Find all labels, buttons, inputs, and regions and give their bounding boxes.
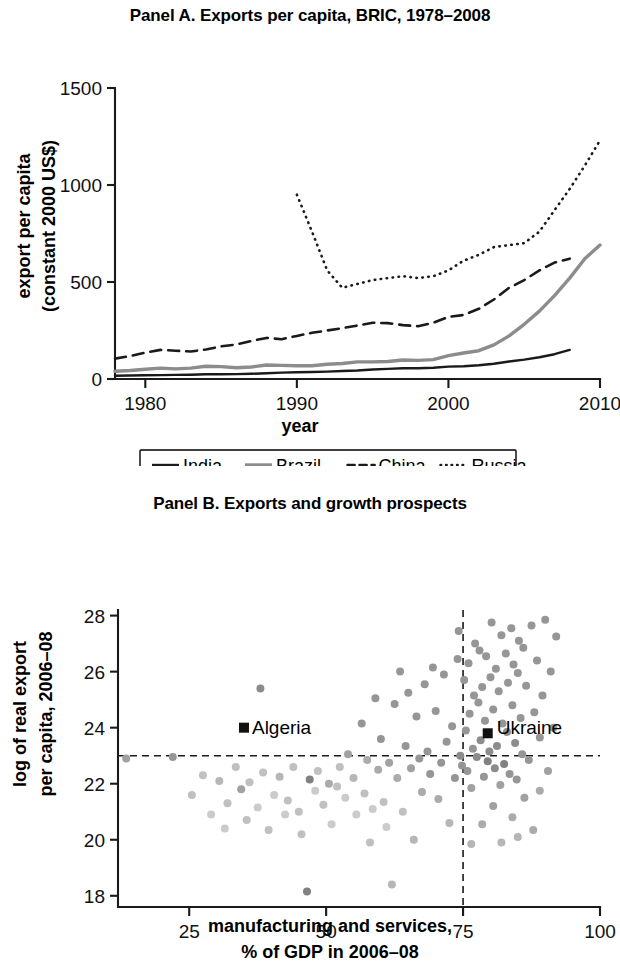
panel-a-axis-lines [115, 88, 600, 379]
scatter-point [508, 701, 516, 709]
scatter-point [522, 682, 530, 690]
scatter-point [544, 767, 552, 775]
scatter-point [215, 777, 223, 785]
scatter-point [402, 742, 410, 750]
panel-b-x-axis-title-line1: manufacturing and services, [208, 916, 452, 936]
scatter-point [410, 836, 418, 844]
scatter-point [369, 805, 377, 813]
panel-b-y-axis-title-line1: log of real export [10, 641, 30, 787]
scatter-point [514, 833, 522, 841]
scatter-point [276, 773, 284, 781]
scatter-point [445, 819, 453, 827]
scatter-point [451, 774, 459, 782]
scatter-point [341, 794, 349, 802]
panel-b-x-tick-label: 100 [584, 921, 616, 942]
scatter-point [478, 820, 486, 828]
scatter-point [243, 816, 251, 824]
scatter-point [547, 668, 555, 676]
scatter-point [333, 783, 341, 791]
panel-a-x-tick-label: 2010 [579, 393, 620, 414]
scatter-point [429, 663, 437, 671]
scatter-point [306, 776, 314, 784]
scatter-point [122, 755, 130, 763]
scatter-point [493, 742, 501, 750]
panel-b-title: Panel B. Exports and growth prospects [0, 480, 620, 514]
panel-b-y-tick-label: 26 [84, 662, 105, 683]
scatter-point [303, 888, 311, 896]
scatter-point [536, 787, 544, 795]
scatter-point [482, 652, 490, 660]
scatter-point [518, 750, 526, 758]
panel-a-legend-label-russia: Russia [472, 456, 528, 467]
scatter-point [530, 708, 538, 716]
scatter-point [519, 644, 527, 652]
scatter-point [426, 770, 434, 778]
scatter-point [256, 685, 264, 693]
scatter-point [467, 784, 475, 792]
scatter-point [514, 669, 522, 677]
scatter-point [421, 680, 429, 688]
panel-a-legend-label-india: India [183, 456, 223, 467]
scatter-point [311, 787, 319, 795]
scatter-point [265, 826, 273, 834]
scatter-point [513, 776, 521, 784]
scatter-point [541, 616, 549, 624]
panel-a-y-axis-title-line1: export per capita [14, 152, 34, 298]
scatter-point [385, 759, 393, 767]
scatter-point [319, 801, 327, 809]
scatter-point [489, 802, 497, 810]
panel-a-y-tick-label: 0 [91, 369, 102, 390]
scatter-point [336, 763, 344, 771]
scatter-point [467, 840, 475, 848]
scatter-point [371, 694, 379, 702]
scatter-point [488, 619, 496, 627]
scatter-point [511, 739, 519, 747]
annotation-label-algeria: Algeria [252, 717, 312, 738]
scatter-point [495, 687, 503, 695]
scatter-point [506, 770, 514, 778]
scatter-point [440, 670, 448, 678]
panel-b-y-tick-label: 20 [84, 830, 105, 851]
scatter-point [474, 699, 482, 707]
scatter-point [232, 763, 240, 771]
scatter-point [358, 720, 366, 728]
scatter-point [497, 839, 505, 847]
panel-a-legend-label-china: China [379, 456, 427, 467]
scatter-point [391, 700, 399, 708]
panel-b-x-tick-label: 25 [179, 921, 200, 942]
panel-b-y-tick-label: 28 [84, 606, 105, 627]
scatter-point [281, 811, 289, 819]
scatter-point [443, 738, 451, 746]
scatter-point [415, 755, 423, 763]
panel-b-x-tick-label: 75 [452, 921, 473, 942]
scatter-point [344, 750, 352, 758]
panel-b-chart: 182022242628255075100 AlgeriaUkraine man… [0, 514, 620, 966]
scatter-point [434, 795, 442, 803]
scatter-point [454, 655, 462, 663]
scatter-point [510, 661, 518, 669]
panel-b-x-axis-title-line2: % of GDP in 2006–08 [241, 942, 419, 962]
false [483, 728, 493, 738]
scatter-point [520, 794, 528, 802]
scatter-point [500, 760, 508, 768]
scatter-point [366, 839, 374, 847]
scatter-point [328, 820, 336, 828]
scatter-point [478, 683, 486, 691]
scatter-point [374, 766, 382, 774]
panel-a-x-tick-label: 1990 [276, 393, 318, 414]
scatter-point [489, 706, 497, 714]
scatter-point [466, 710, 474, 718]
scatter-point [418, 788, 426, 796]
scatter-point [399, 808, 407, 816]
scatter-point [224, 799, 232, 807]
scatter-point [188, 791, 196, 799]
scatter-point [221, 825, 229, 833]
scatter-point [508, 813, 516, 821]
scatter-point [456, 752, 464, 760]
scatter-point [380, 798, 388, 806]
scatter-point [295, 808, 303, 816]
panel-a-title: Panel A. Exports per capita, BRIC, 1978–… [0, 0, 620, 26]
scatter-point [528, 621, 536, 629]
panel-b-y-tick-label: 18 [84, 886, 105, 907]
scatter-point [465, 659, 473, 667]
